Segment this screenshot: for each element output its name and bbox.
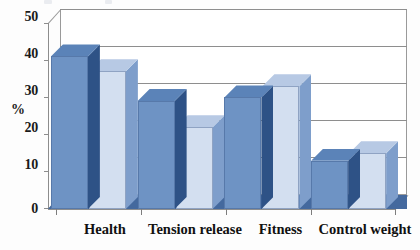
x-axis-label-tension-release: Tension release	[140, 222, 250, 237]
bar-side-face	[126, 59, 138, 209]
bar-side-face	[261, 85, 273, 209]
bar-front-face	[51, 56, 88, 209]
bar-fitness-series1	[224, 85, 273, 209]
bar-side-face	[299, 74, 311, 209]
bar-chart: 50 40 30 20 10 0 % Health Tension releas…	[0, 0, 420, 250]
bar-tension-release-series1	[138, 89, 187, 209]
bar-control-weight-series1	[311, 149, 360, 209]
x-axis-label-fitness: Fitness	[243, 222, 318, 237]
bars-layer	[0, 0, 420, 250]
bar-front-face	[311, 161, 348, 209]
bar-health-series1	[51, 44, 100, 209]
x-axis-label-health: Health	[60, 222, 150, 237]
bar-side-face	[175, 89, 187, 209]
x-axis-label-control-weight: Control weight	[311, 222, 419, 237]
bar-front-face	[224, 97, 261, 209]
bar-side-face	[213, 115, 225, 209]
bar-front-face	[138, 101, 175, 209]
bar-side-face	[88, 44, 100, 209]
